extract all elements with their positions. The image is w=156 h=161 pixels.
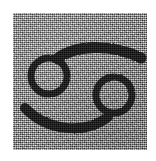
lower-ring-stroke [96,77,132,113]
symbol-plate [13,13,147,150]
upper-ring-stroke [31,58,67,94]
cancer-glyph-svg [13,13,147,150]
image-canvas [0,0,156,161]
cancer-glyph [13,13,147,150]
lower-arc-stroke [25,108,108,128]
upper-arc-stroke [57,48,141,59]
